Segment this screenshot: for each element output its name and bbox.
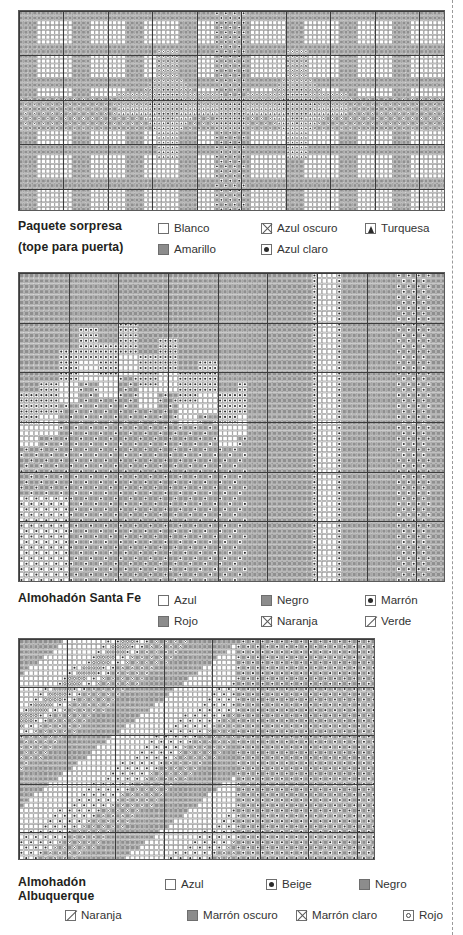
legend-label-marron: Marrón <box>381 591 418 609</box>
legend-label-azul: Azul <box>181 875 204 893</box>
legend-label-amarillo: Amarillo <box>174 240 216 258</box>
cross-box-icon <box>296 910 307 921</box>
dot-box-icon <box>266 879 277 890</box>
cross-box-icon <box>261 616 272 627</box>
legend-item-rojo: Rojo <box>403 906 443 924</box>
pattern-chart-paquete-sorpresa <box>18 10 445 211</box>
solid-box-icon <box>158 616 169 627</box>
legend-label-naranja: Naranja <box>277 612 318 630</box>
legend-item-turquesa: Turquesa <box>365 219 430 237</box>
legend-label-azul-claro: Azul claro <box>277 240 328 258</box>
legend-item-amarillo: Amarillo <box>158 240 261 258</box>
legend-label-turquesa: Turquesa <box>381 219 430 237</box>
dot-box-icon <box>365 595 376 606</box>
legend-item-marron-oscuro: Marrón oscuro <box>187 906 296 924</box>
pattern-chart-almohadon-santa-fe <box>18 272 445 582</box>
solid-box-icon <box>158 244 169 255</box>
legend-item-naranja: Naranja <box>261 612 365 630</box>
legend-almohadon-santa-fe: Almohadón Santa Fe Azul Negro Marrón Roj… <box>18 591 450 630</box>
legend-label-negro: Negro <box>375 875 407 893</box>
legend-item-negro: Negro <box>359 875 407 893</box>
cross-box-icon <box>261 223 272 234</box>
chart-title-almohadon-albuquerque: Almohadón Albuquerque <box>18 875 165 903</box>
chart-block-paquete-sorpresa <box>18 10 445 211</box>
legend-item-azul-claro: Azul claro <box>261 240 365 258</box>
legend-label-verde: Verde <box>381 612 411 630</box>
legend-label-blanco: Blanco <box>174 219 209 237</box>
solid-box-icon <box>359 879 370 890</box>
chart-title-paquete-sorpresa-line2: (tope para puerta) <box>18 240 158 254</box>
legend-label-azul-oscuro: Azul oscuro <box>277 219 338 237</box>
diagonal-box-icon <box>365 616 376 627</box>
legend-item-naranja: Naranja <box>65 906 187 924</box>
solid-box-icon <box>187 910 198 921</box>
diagonal-box-icon <box>65 910 76 921</box>
empty-box-icon <box>158 223 169 234</box>
legend-item-marron-claro: Marrón claro <box>296 906 403 924</box>
legend-almohadon-albuquerque: Almohadón Albuquerque Azul Beige Negro N… <box>18 875 450 924</box>
legend-item-verde: Verde <box>365 612 411 630</box>
empty-box-icon <box>158 595 169 606</box>
legend-item-marron: Marrón <box>365 591 418 609</box>
legend-item-beige: Beige <box>266 875 359 893</box>
legend-label-rojo: Rojo <box>419 906 443 924</box>
solid-box-icon <box>261 595 272 606</box>
legend-label-rojo: Rojo <box>174 612 198 630</box>
legend-item-rojo: Rojo <box>158 612 261 630</box>
dot-box-icon <box>261 244 272 255</box>
empty-box-icon <box>165 879 176 890</box>
legend-item-negro: Negro <box>261 591 365 609</box>
ring-box-icon <box>403 910 414 921</box>
legend-label-beige: Beige <box>282 875 312 893</box>
chart-block-almohadon-santa-fe <box>18 272 445 582</box>
triangle-box-icon <box>365 223 376 234</box>
page-edge-dashed-rule <box>452 0 453 935</box>
legend-label-marron-oscuro: Marrón oscuro <box>203 906 278 924</box>
chart-title-almohadon-santa-fe: Almohadón Santa Fe <box>18 591 158 605</box>
chart-block-almohadon-albuquerque <box>18 638 375 860</box>
legend-label-naranja: Naranja <box>81 906 122 924</box>
legend-item-azul: Azul <box>165 875 266 893</box>
legend-label-azul: Azul <box>174 591 197 609</box>
legend-item-azul-oscuro: Azul oscuro <box>261 219 365 237</box>
legend-label-negro: Negro <box>277 591 309 609</box>
chart-title-paquete-sorpresa-line1: Paquete sorpresa <box>18 219 158 233</box>
legend-item-azul: Azul <box>158 591 261 609</box>
legend-label-marron-claro: Marrón claro <box>312 906 377 924</box>
legend-paquete-sorpresa: Paquete sorpresa Blanco Azul oscuro Turq… <box>18 219 450 258</box>
legend-item-blanco: Blanco <box>158 219 261 237</box>
pattern-chart-almohadon-albuquerque <box>18 638 375 860</box>
